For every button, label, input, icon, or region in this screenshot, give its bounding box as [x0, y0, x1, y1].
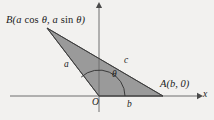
side-label-c: c [124, 56, 128, 66]
angle-label-theta: θ [112, 70, 117, 80]
x-axis-label: x [203, 90, 207, 100]
side-label-b: b [127, 100, 132, 110]
y-axis-arrowhead [96, 2, 102, 8]
vertex-label-B: B(a cos θ, a sin θ) [6, 15, 85, 26]
side-label-a: a [64, 60, 69, 70]
vertex-label-A: A(b, 0) [160, 79, 189, 90]
geometry-figure: B(a cos θ, a sin θ) A(b, 0) O a b c θ x [0, 0, 214, 120]
origin-label: O [92, 98, 99, 108]
